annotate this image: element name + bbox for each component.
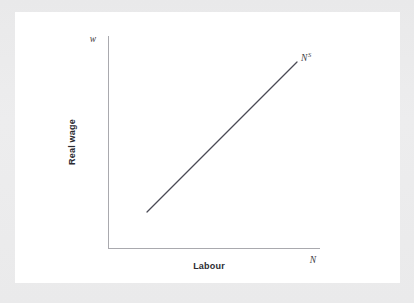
- y-axis-variable-label: w: [90, 34, 97, 44]
- labour-supply-chart: w N N S Real wage Labour: [0, 0, 414, 303]
- curve-label-superscript: S: [308, 51, 312, 58]
- x-axis-variable-label: N: [309, 255, 317, 265]
- plot-area: w N N S Real wage Labour: [0, 0, 414, 303]
- x-axis-title: Labour: [193, 261, 225, 271]
- curve-label-base: N: [300, 53, 308, 63]
- figure-root: w N N S Real wage Labour: [0, 0, 414, 303]
- labour-supply-curve: [147, 62, 297, 212]
- y-axis-title: Real wage: [67, 119, 77, 165]
